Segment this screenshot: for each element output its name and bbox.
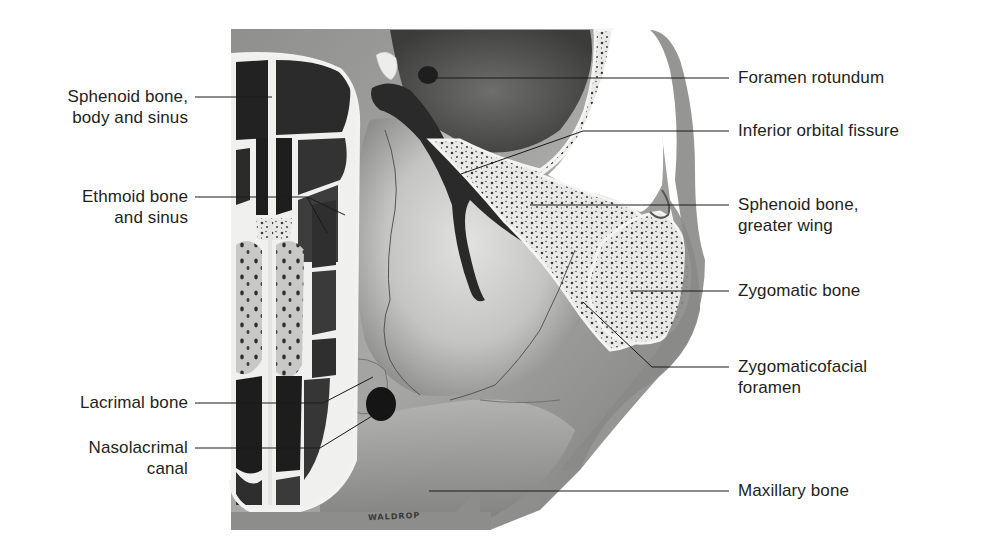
label-lacrimal-bone: Lacrimal bone — [80, 392, 188, 413]
label-zygomatic-bone: Zygomatic bone — [738, 280, 860, 301]
label-zygomaticofacial-foramen: Zygomaticofacial foramen — [738, 356, 867, 398]
label-foramen-rotundum: Foramen rotundum — [738, 67, 884, 88]
label-line: greater wing — [738, 215, 859, 236]
label-line: body and sinus — [67, 107, 188, 128]
label-ethmoid-bone-sinus: Ethmoid bone and sinus — [82, 186, 188, 228]
label-line: Ethmoid bone — [82, 186, 188, 207]
label-line: and sinus — [82, 207, 188, 228]
label-maxillary-bone: Maxillary bone — [738, 480, 849, 501]
label-inferior-orbital-fissure: Inferior orbital fissure — [738, 120, 899, 141]
label-line: foramen — [738, 377, 867, 398]
label-nasolacrimal-canal: Nasolacrimal canal — [89, 437, 188, 479]
label-line: Foramen rotundum — [738, 67, 884, 88]
label-line: Zygomaticofacial — [738, 356, 867, 377]
label-line: Nasolacrimal — [89, 437, 188, 458]
label-line: Zygomatic bone — [738, 280, 860, 301]
label-sphenoid-greater-wing: Sphenoid bone, greater wing — [738, 194, 859, 236]
label-line: Sphenoid bone, — [67, 86, 188, 107]
label-line: Lacrimal bone — [80, 392, 188, 413]
anatomy-figure: WALDROP Sphenoid bone, body and sinus Et… — [0, 0, 985, 551]
label-sphenoid-body-sinus: Sphenoid bone, body and sinus — [67, 86, 188, 128]
label-line: Inferior orbital fissure — [738, 120, 899, 141]
label-line: Sphenoid bone, — [738, 194, 859, 215]
label-line: Maxillary bone — [738, 480, 849, 501]
label-line: canal — [89, 458, 188, 479]
